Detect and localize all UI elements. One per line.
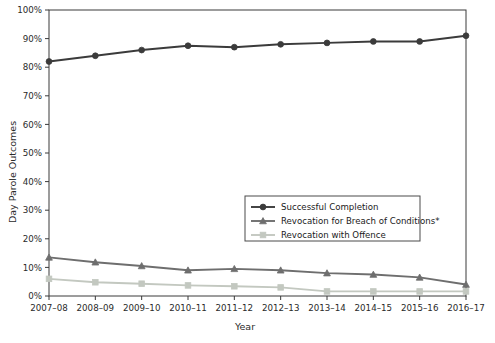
line-chart: 0%10%20%30%40%50%60%70%80%90%100% 2007–0… [0, 0, 495, 343]
data-point-marker [463, 33, 469, 39]
y-axis-title: Day Parole Outcomes [7, 121, 18, 223]
y-tick-label: 10% [23, 263, 42, 273]
data-point-marker [324, 289, 330, 295]
chart-canvas: 0%10%20%30%40%50%60%70%80%90%100% 2007–0… [0, 0, 495, 343]
data-point-marker [417, 289, 423, 295]
data-point-marker [278, 41, 284, 47]
data-point-marker [260, 232, 266, 238]
legend-label: Revocation for Breach of Conditions* [281, 216, 440, 226]
y-tick-label: 0% [28, 291, 42, 301]
y-tick-label: 40% [23, 177, 42, 187]
y-tick-label: 20% [23, 234, 42, 244]
data-point-marker [278, 285, 284, 291]
legend-label: Successful Completion [281, 202, 378, 212]
data-point-marker [231, 44, 237, 50]
y-tick-label: 100% [17, 5, 42, 15]
data-point-marker [139, 47, 145, 53]
x-tick-label: 2008–09 [77, 303, 115, 313]
data-point-marker [417, 39, 423, 45]
x-tick-label: 2012–13 [262, 303, 300, 313]
y-tick-label: 80% [23, 62, 42, 72]
data-point-marker [260, 204, 266, 210]
data-point-marker [46, 59, 52, 65]
data-point-marker [92, 53, 98, 59]
x-tick-label: 2013–14 [308, 303, 346, 313]
y-tick-label: 70% [23, 91, 42, 101]
x-tick-label: 2015–16 [401, 303, 439, 313]
data-point-marker [46, 276, 52, 282]
legend-label: Revocation with Offence [281, 230, 386, 240]
data-point-marker [232, 283, 238, 289]
x-tick-label: 2011–12 [216, 303, 254, 313]
data-point-marker [93, 279, 99, 285]
data-point-marker [185, 283, 191, 289]
chart-legend: Successful CompletionRevocation for Brea… [245, 196, 440, 241]
x-tick-label: 2016–17 [447, 303, 485, 313]
y-tick-label: 30% [23, 205, 42, 215]
data-point-marker [370, 39, 376, 45]
x-tick-label: 2009–10 [123, 303, 161, 313]
data-point-marker [139, 281, 145, 287]
y-tick-label: 50% [23, 148, 42, 158]
data-point-marker [463, 289, 469, 295]
x-tick-label: 2007–08 [30, 303, 68, 313]
data-point-marker [371, 289, 377, 295]
y-tick-label: 90% [23, 34, 42, 44]
data-point-marker [185, 43, 191, 49]
data-point-marker [324, 40, 330, 46]
x-tick-label: 2010–11 [169, 303, 207, 313]
y-tick-label: 60% [23, 120, 42, 130]
x-tick-label: 2014–15 [355, 303, 393, 313]
x-axis-title: Year [234, 321, 255, 332]
